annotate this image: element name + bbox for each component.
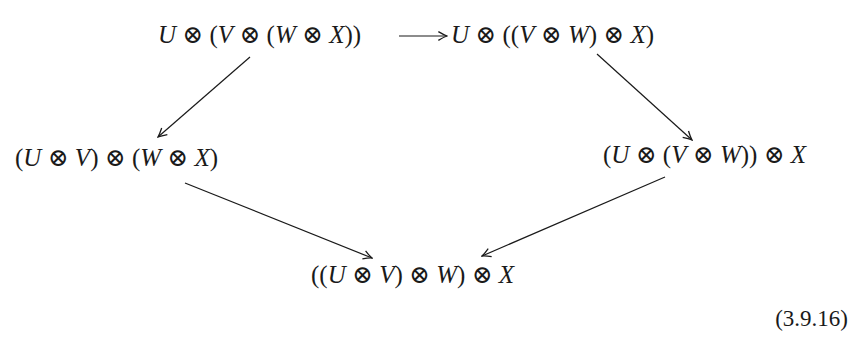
arrows-layer: [0, 0, 862, 345]
equation-number: (3.9.16): [775, 306, 848, 332]
arrow-top-left-to-mid-left: [158, 57, 250, 137]
arrow-top-right-to-mid-right: [597, 54, 692, 140]
arrow-mid-right-to-bottom: [482, 177, 665, 256]
arrow-mid-left-to-bottom: [185, 183, 372, 258]
